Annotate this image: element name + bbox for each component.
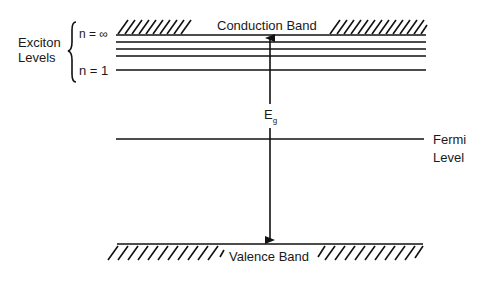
n-1-label: n = 1 — [79, 63, 108, 78]
valence-band-label: Valence Band — [229, 249, 309, 264]
n-infinity-label: n = ∞ — [79, 27, 108, 42]
band-diagram — [0, 0, 485, 281]
band-gap-subscript: g — [273, 116, 277, 125]
band-gap-symbol: E — [264, 107, 273, 122]
fermi-label-line2: Level — [433, 150, 464, 165]
exciton-brace — [68, 22, 76, 82]
conduction-band-label: Conduction Band — [217, 18, 317, 33]
fermi-label-line1: Fermi — [433, 132, 466, 147]
band-gap-label: Eg — [264, 107, 277, 124]
exciton-label-line1: Exciton — [18, 35, 61, 50]
exciton-label-line2: Levels — [18, 50, 56, 65]
